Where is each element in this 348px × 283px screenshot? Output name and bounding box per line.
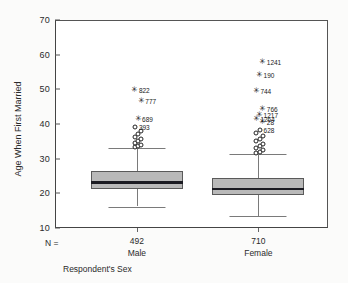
y-tick-label: 50	[24, 84, 50, 94]
outlier-marker-star: ✳	[138, 97, 145, 105]
outlier-label: 777	[145, 98, 156, 105]
y-tick-label: 30	[24, 154, 50, 164]
outlier-label: 766	[267, 105, 278, 112]
outlier-marker-circle	[260, 133, 265, 138]
whisker-cap-lower	[230, 216, 287, 217]
median-line	[212, 188, 304, 190]
outlier-label: 1241	[267, 58, 281, 65]
outlier-marker-star: ✳	[259, 105, 266, 113]
y-tick-label: 20	[24, 188, 50, 198]
y-tick-label: 60	[24, 50, 50, 60]
outlier-marker-star: ✳	[135, 115, 142, 123]
median-line	[91, 181, 183, 183]
box-plot-male: 393✳689✳777✳822	[91, 20, 183, 228]
outlier-marker-star: ✳	[131, 86, 138, 94]
outlier-label: 822	[139, 87, 150, 94]
category-label-female: Female	[244, 248, 272, 258]
outlier-marker-star: ✳	[253, 87, 260, 95]
boxplot-chart: Age When First Married 70605040302010 39…	[0, 0, 348, 283]
whisker-cap-lower	[108, 207, 165, 208]
outlier-marker-circle	[257, 128, 262, 133]
x-tick-mark	[258, 228, 259, 232]
y-tick-label: 10	[24, 223, 50, 233]
outlier-marker-circle	[260, 142, 265, 147]
y-tick-label: 40	[24, 119, 50, 129]
whisker-upper	[258, 154, 259, 178]
outlier-label: 393	[139, 124, 150, 131]
box-iqr	[91, 171, 183, 188]
whisker-lower	[137, 189, 138, 207]
box-plot-female: 628✳28✳1264✳1217✳766✳744✳190✳1241	[212, 20, 304, 228]
outlier-marker-circle	[132, 125, 137, 130]
outlier-marker-circle	[139, 137, 144, 142]
n-value-male: 492	[130, 236, 144, 246]
y-tick-label: 70	[24, 15, 50, 25]
outlier-label: 744	[260, 87, 271, 94]
whisker-upper	[137, 148, 138, 171]
n-value-female: 710	[251, 236, 265, 246]
outlier-label: 689	[142, 115, 153, 122]
outlier-marker-circle	[260, 148, 265, 153]
n-equals-label: N =	[45, 238, 58, 248]
x-axis-title: Respondent's Sex	[63, 264, 132, 274]
x-tick-mark	[137, 228, 138, 232]
plot-area: 393✳689✳777✳822628✳28✳1264✳1217✳766✳744✳…	[55, 20, 328, 228]
outlier-label: 190	[264, 72, 275, 79]
whisker-lower	[258, 195, 259, 216]
outlier-marker-star: ✳	[256, 71, 263, 79]
y-axis-title: Age When First Married	[13, 64, 23, 194]
outlier-marker-star: ✳	[259, 58, 266, 66]
outlier-label: 628	[264, 127, 275, 134]
category-label-male: Male	[128, 248, 146, 258]
